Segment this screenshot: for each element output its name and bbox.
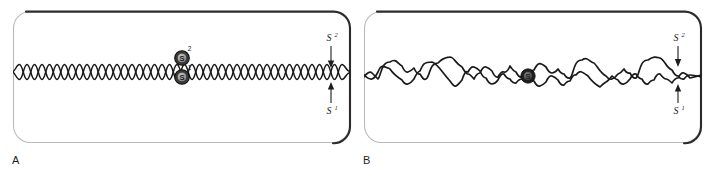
figure-canvas: S 2 S 1 S 2 S 1 xyxy=(0,0,712,173)
arrow-head-up xyxy=(675,84,681,92)
marker-superscript: 1 xyxy=(188,64,192,71)
marker-letter: S xyxy=(179,73,184,82)
panel-b-marker-s: S xyxy=(521,69,535,83)
annotation-superscript: 2 xyxy=(682,31,686,38)
annotation-superscript: 2 xyxy=(335,31,339,38)
panel-a-annotation-s2: S 2 xyxy=(327,31,339,69)
panel-b-caption: B xyxy=(363,155,371,166)
marker-superscript: 2 xyxy=(188,45,192,52)
panel-b-annotation-s1: S 1 xyxy=(674,84,685,116)
annotation-label: S xyxy=(674,32,679,43)
panel-a: S 2 S 1 S 2 S 1 xyxy=(12,12,351,144)
marker-letter: S xyxy=(525,72,530,81)
panel-a-caption: A xyxy=(12,155,20,166)
panel-b-frame-dark xyxy=(377,12,701,144)
arrow-head-down xyxy=(675,59,681,67)
panel-b-annotation-s2: S 2 xyxy=(674,31,686,68)
arrow-head-up xyxy=(328,82,334,90)
marker-letter: S xyxy=(179,54,184,63)
annotation-label: S xyxy=(327,105,332,116)
annotation-label: S xyxy=(327,32,332,43)
annotation-label: S xyxy=(674,105,679,116)
panel-a-marker-s2: S 2 xyxy=(175,45,192,66)
phonocardiogram-figure: S 2 S 1 S 2 S 1 xyxy=(0,0,712,173)
panel-a-annotation-s1: S 1 xyxy=(327,82,338,116)
annotation-superscript: 1 xyxy=(682,104,685,111)
panel-b: S S 2 S 1 xyxy=(363,12,702,144)
annotation-superscript: 1 xyxy=(335,104,338,111)
